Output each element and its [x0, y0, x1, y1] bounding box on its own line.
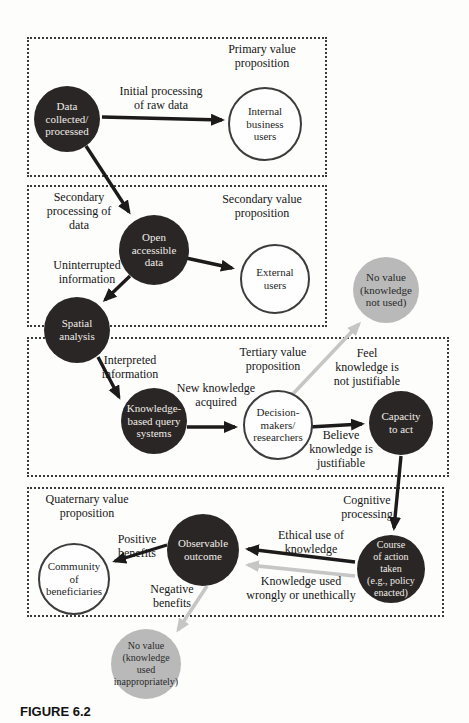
- arrow-decision-to-capacity: [309, 424, 362, 427]
- negative-benefits-label: Negative benefits: [132, 582, 212, 610]
- figure-caption: FIGURE 6.2: [20, 704, 91, 719]
- primary-value-proposition-label: Primary value proposition: [210, 42, 314, 70]
- figure-6-2-diagram: Data collected/ processed Internal busin…: [0, 0, 469, 723]
- secondary-value-proposition-label: Secondary value proposition: [205, 192, 319, 220]
- uninterrupted-information-label: Uninterrupted information: [37, 258, 137, 286]
- node-no-value-not-used: No value (knowledge not used): [353, 257, 419, 323]
- node-no-value-inappropriate: No value (knowledge used inappropriately…: [111, 629, 181, 699]
- secondary-processing-label: Secondary processing of data: [33, 190, 125, 232]
- initial-processing-label: Initial processing of raw data: [109, 84, 213, 112]
- cognitive-processing-label: Cognitive processing: [322, 493, 412, 521]
- interpreted-information-label: Interpreted information: [85, 353, 175, 381]
- arrow-open-to-external: [186, 258, 232, 268]
- arrow-data-to-internal: [102, 117, 222, 120]
- node-external-users: External users: [240, 244, 310, 314]
- new-knowledge-acquired-label: New knowledge acquired: [164, 381, 268, 409]
- believe-knowledge-justifiable-label: Believe knowledge is justifiable: [296, 428, 386, 470]
- tertiary-value-proposition-label: Tertiary value proposition: [221, 345, 325, 373]
- ethical-use-label: Ethical use of knowledge: [264, 528, 358, 556]
- knowledge-used-wrongly-label: Knowledge used wrongly or unethically: [229, 574, 373, 602]
- node-data-collected: Data collected/ processed: [34, 86, 100, 152]
- node-community-of-beneficiaries: Community of beneficiaries: [38, 543, 110, 615]
- node-internal-business-users: Internal business users: [228, 87, 302, 161]
- quaternary-value-proposition-label: Quaternary value proposition: [31, 492, 143, 520]
- feel-knowledge-not-justifiable-label: Feel knowledge is not justifiable: [320, 346, 414, 388]
- positive-benefits-label: Positive benefits: [102, 532, 172, 560]
